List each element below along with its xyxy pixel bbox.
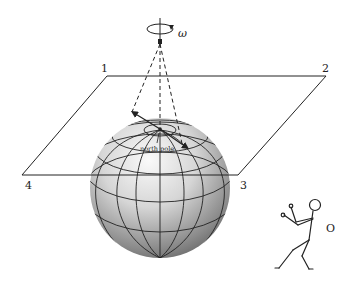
- diagram-canvas: 1 2 3 4 ω north pole O: [0, 0, 355, 286]
- north-pole-point: [158, 127, 162, 131]
- rotation-indicator: ω: [147, 18, 187, 44]
- observer-label: O: [326, 222, 335, 235]
- observer-forearm: [291, 207, 296, 222]
- pendulum-string-left: [132, 44, 160, 112]
- pendulum-pivot: [158, 39, 162, 44]
- corner-label-3: 3: [240, 179, 247, 192]
- omega-label: ω: [178, 27, 187, 40]
- observer-figure: [275, 200, 321, 270]
- globe: [82, 118, 238, 258]
- corner-label-4: 4: [25, 179, 32, 192]
- observer-shin: [302, 256, 309, 269]
- observer-shin: [279, 250, 293, 268]
- corner-label-2: 2: [322, 62, 329, 75]
- observer-head: [310, 200, 321, 211]
- corner-label-1: 1: [101, 62, 108, 75]
- observer-hand: [289, 204, 293, 208]
- north-pole-label: north pole: [140, 145, 174, 153]
- observer-hand: [281, 213, 285, 217]
- observer-body: [309, 211, 313, 240]
